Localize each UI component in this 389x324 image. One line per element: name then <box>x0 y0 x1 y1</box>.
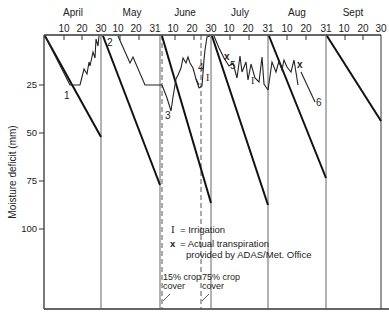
tick-label: 10 <box>281 23 293 34</box>
series-5-line <box>214 36 268 90</box>
series-6-line <box>268 60 298 90</box>
legend-irrigation-label: = Irrigation <box>180 224 225 235</box>
y-axis: 25 50 75 100 Moisture deficit (mm) <box>7 79 44 234</box>
series-label-3: 3 <box>165 110 171 121</box>
legend-transpiration-symbol: x <box>170 238 176 249</box>
tick-label: 31 <box>149 23 161 34</box>
month-labels: April May June July Aug Sept <box>63 7 364 18</box>
month-july: July <box>231 7 249 18</box>
potential-line-sept <box>327 36 381 121</box>
plot-frame <box>44 35 389 309</box>
y-axis-label: Moisture deficit (mm) <box>7 125 18 218</box>
y-tick-label: 25 <box>26 79 37 90</box>
tick-label: 30 <box>95 23 107 34</box>
month-june: June <box>174 7 196 18</box>
month-boundaries <box>101 35 326 309</box>
crop-cover-annotations: 15% crop cover 75% crop cover <box>163 272 240 301</box>
series-label-4: 4 <box>198 62 204 73</box>
tick-label: 30 <box>205 23 217 34</box>
series-6-transpiration-line <box>301 72 315 102</box>
tick-label: 31 <box>262 23 274 34</box>
potential-deficit-lines <box>45 36 381 205</box>
legend: I = Irrigation x = Actual transpiration … <box>170 223 312 260</box>
tick-label: 10 <box>58 23 70 34</box>
tick-label: 20 <box>130 23 142 34</box>
tick-label: 10 <box>112 23 124 34</box>
series-2-line <box>118 36 162 85</box>
series-labels: 1 2 3 4 5 6 <box>64 37 322 121</box>
irrigation-marker: I <box>206 72 209 83</box>
tick-label: 10 <box>167 23 179 34</box>
potential-line-april <box>45 36 101 137</box>
legend-transpiration-label2: provided by ADAS/Met. Office <box>186 249 312 260</box>
crop-75-label-line2: cover <box>202 281 224 291</box>
month-sept: Sept <box>343 7 364 18</box>
series-3-line <box>162 57 199 111</box>
tick-label: 10 <box>338 23 350 34</box>
tick-label: 20 <box>300 23 312 34</box>
transpiration-markers: x x <box>224 51 303 70</box>
y-tick-label: 100 <box>21 223 37 234</box>
tick-label: 30 <box>375 23 387 34</box>
month-aug: Aug <box>288 7 306 18</box>
potential-line-july <box>212 36 268 205</box>
series-label-1: 1 <box>64 90 70 101</box>
y-tick-label: 50 <box>26 127 37 138</box>
potential-line-may <box>103 36 160 185</box>
moisture-deficit-chart: April May June July Aug Sept 10 20 30 10… <box>0 0 389 324</box>
series-label-5: 5 <box>230 60 236 71</box>
tick-label: 20 <box>242 23 254 34</box>
month-april: April <box>63 7 83 18</box>
x-marker: x <box>297 59 303 70</box>
series-label-6: 6 <box>316 97 322 108</box>
legend-transpiration-label: = Actual transpiration <box>180 238 269 249</box>
crop-15-label-line2: cover <box>163 281 185 291</box>
tick-label: 31 <box>320 23 332 34</box>
y-tick-label: 75 <box>26 175 37 186</box>
series-label-2: 2 <box>107 37 113 48</box>
tick-label: 20 <box>76 23 88 34</box>
tick-label: 20 <box>357 23 369 34</box>
day-tick-labels: 10 20 30 10 20 31 10 20 30 10 20 31 10 2… <box>58 23 387 34</box>
series-1-line <box>45 36 99 85</box>
legend-irrigation-symbol: I <box>171 223 175 235</box>
tick-label: 10 <box>223 23 235 34</box>
tick-label: 20 <box>186 23 198 34</box>
month-may: May <box>123 7 142 18</box>
irrigation-marker: I <box>251 75 254 86</box>
